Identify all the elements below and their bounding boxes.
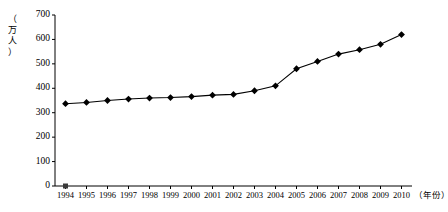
line-chart: （ 万 人 ） 0100200300400500600700 （年份） 1994… xyxy=(0,0,448,212)
x-axis-tick-labels: （年份） 19941995199619971998199920002001200… xyxy=(0,0,448,212)
x-axis-tick-label: 2010 xyxy=(389,190,415,200)
x-axis-unit-label: （年份） xyxy=(414,190,448,200)
